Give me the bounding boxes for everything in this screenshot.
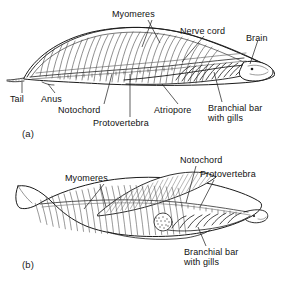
label-branchial-bar-b-line1: Branchial bar bbox=[184, 247, 238, 258]
label-branchial-bar-a-line1: Branchial bar bbox=[208, 103, 262, 114]
label-myomeres-a: Myomeres bbox=[112, 9, 155, 20]
figure-root: Myomeres Nerve cord Brain Tail Anus Noto… bbox=[0, 0, 290, 286]
label-branchial-bar-a-line2: with gills bbox=[208, 113, 243, 124]
panel-label-a: (a) bbox=[22, 128, 34, 139]
label-branchial-bar-b-line2: with gills bbox=[184, 257, 219, 268]
label-myomeres-b: Myomeres bbox=[65, 173, 108, 184]
label-protovertebra-a: Protovertebra bbox=[93, 118, 149, 129]
label-protovertebra-b: Protovertebra bbox=[200, 169, 256, 180]
label-nerve-cord-a: Nerve cord bbox=[180, 26, 225, 37]
label-anus-a: Anus bbox=[41, 94, 62, 105]
panel-label-b: (b) bbox=[22, 259, 34, 270]
label-atriopore-a: Atriopore bbox=[154, 105, 191, 116]
label-notochord-b: Notochord bbox=[180, 155, 222, 166]
label-notochord-a: Notochord bbox=[58, 105, 100, 116]
label-tail-a: Tail bbox=[10, 94, 24, 105]
label-brain-a: Brain bbox=[246, 33, 268, 44]
